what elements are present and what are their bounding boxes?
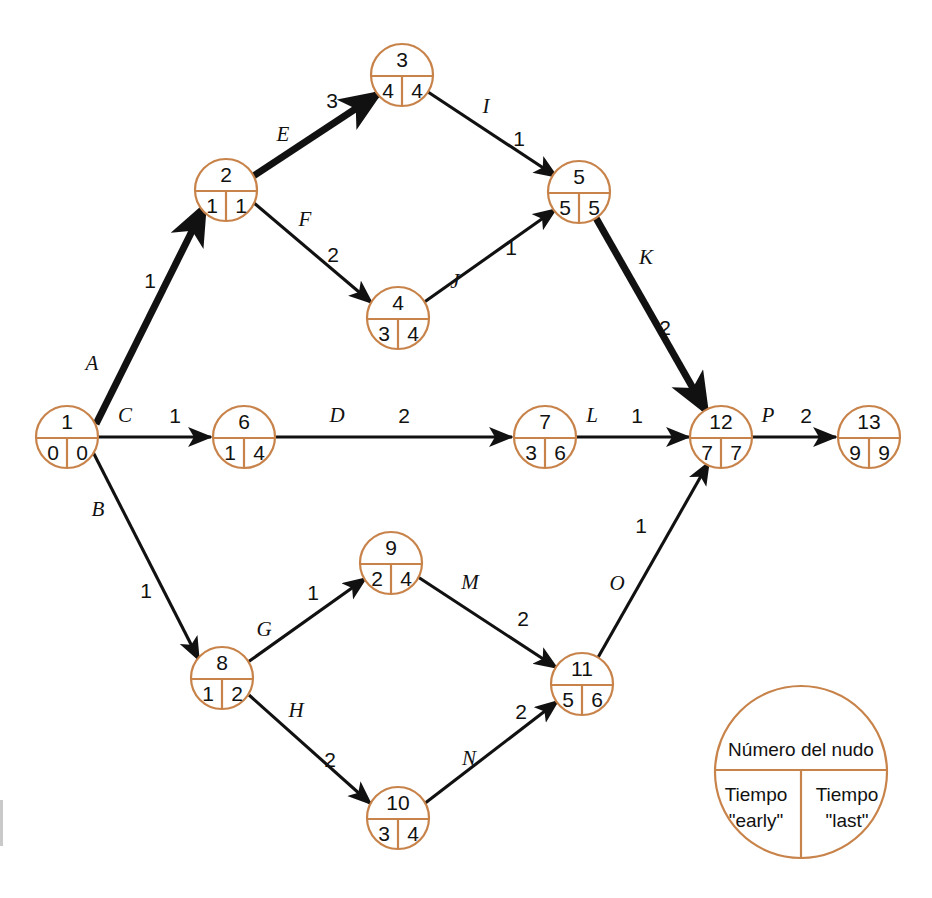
node-last-6: 4 xyxy=(253,441,265,464)
node-number-8: 8 xyxy=(216,651,228,674)
node-3[interactable]: 344 xyxy=(371,44,433,106)
node-last-7: 6 xyxy=(554,441,566,464)
edge-J[interactable]: J1 xyxy=(423,209,556,303)
edge-L[interactable]: L1 xyxy=(577,403,689,437)
legend-last-label-line2: "last" xyxy=(825,810,868,831)
edge-duration-J: 1 xyxy=(505,236,517,259)
edge-N[interactable]: N2 xyxy=(424,700,558,804)
edge-duration-D: 2 xyxy=(398,404,410,427)
edge-line-H[interactable] xyxy=(249,695,371,804)
node-early-1: 0 xyxy=(47,441,59,464)
node-early-11: 5 xyxy=(562,688,574,711)
node-last-9: 4 xyxy=(400,567,412,590)
node-last-3: 4 xyxy=(411,79,423,102)
node-number-9: 9 xyxy=(385,536,397,559)
legend-early-label-line1: Tiempo xyxy=(725,784,788,805)
legend-node-number-label: Número del nudo xyxy=(728,739,874,760)
edge-line-B[interactable] xyxy=(93,452,199,660)
node-last-4: 4 xyxy=(407,322,419,345)
node-early-3: 4 xyxy=(382,79,394,102)
node-early-7: 3 xyxy=(525,441,537,464)
node-last-13: 9 xyxy=(878,441,890,464)
node-early-10: 3 xyxy=(378,822,390,845)
edge-line-O[interactable] xyxy=(596,462,709,661)
edge-M[interactable]: M2 xyxy=(418,570,557,668)
edge-F[interactable]: F2 xyxy=(254,203,372,303)
edge-B[interactable]: B1 xyxy=(92,452,199,660)
node-4[interactable]: 434 xyxy=(367,287,429,349)
edge-label-N: N xyxy=(461,746,477,770)
edge-label-J: J xyxy=(450,269,461,293)
edge-label-C: C xyxy=(118,403,133,427)
edge-duration-P: 2 xyxy=(800,404,812,427)
node-9[interactable]: 924 xyxy=(360,532,422,594)
edge-A[interactable]: A1 xyxy=(84,207,204,424)
edge-line-A[interactable] xyxy=(96,207,204,424)
edge-label-O: O xyxy=(609,571,624,595)
edge-K[interactable]: K2 xyxy=(596,218,706,411)
node-last-8: 2 xyxy=(231,682,243,705)
edge-O[interactable]: O1 xyxy=(596,462,709,661)
edge-label-P: P xyxy=(761,403,775,427)
node-early-4: 3 xyxy=(378,322,390,345)
node-last-2: 1 xyxy=(235,194,247,217)
node-early-6: 1 xyxy=(224,441,236,464)
node-5[interactable]: 555 xyxy=(548,161,610,223)
edge-duration-F: 2 xyxy=(327,243,339,266)
edge-label-D: D xyxy=(328,403,344,427)
edge-E[interactable]: E3 xyxy=(252,89,378,177)
edge-label-L: L xyxy=(585,403,598,427)
network-diagram: A1B1C1D2E3F2I1J1K2L1G1H2M2N2O1P2 1002113… xyxy=(0,0,932,898)
edge-duration-I: 1 xyxy=(513,127,525,150)
edge-label-K: K xyxy=(638,245,654,269)
edge-label-E: E xyxy=(276,122,290,146)
edge-line-N[interactable] xyxy=(424,701,558,804)
node-13[interactable]: 1399 xyxy=(838,406,900,468)
edge-duration-E: 3 xyxy=(326,89,338,112)
node-last-12: 7 xyxy=(730,441,742,464)
edge-H[interactable]: H2 xyxy=(249,695,371,804)
edge-line-J[interactable] xyxy=(423,209,556,303)
node-last-11: 6 xyxy=(591,688,603,711)
edge-duration-C: 1 xyxy=(169,404,181,427)
edge-label-B: B xyxy=(92,497,105,521)
legend-early-label-line2: "early" xyxy=(729,810,784,831)
node-last-1: 0 xyxy=(76,441,88,464)
edge-C[interactable]: C1 xyxy=(96,403,211,437)
edge-label-M: M xyxy=(460,570,480,594)
edge-D[interactable]: D2 xyxy=(276,403,512,437)
edge-line-I[interactable] xyxy=(428,92,557,177)
edge-duration-N: 2 xyxy=(515,700,527,723)
edge-line-M[interactable] xyxy=(418,577,557,668)
edge-line-F[interactable] xyxy=(254,203,372,303)
node-number-7: 7 xyxy=(539,410,551,433)
node-number-13: 13 xyxy=(857,410,880,433)
page-edge-mark xyxy=(0,800,3,846)
edge-P[interactable]: P2 xyxy=(753,403,836,437)
node-7[interactable]: 736 xyxy=(514,406,576,468)
edge-duration-H: 2 xyxy=(324,748,336,771)
node-6[interactable]: 614 xyxy=(213,406,275,468)
node-1[interactable]: 100 xyxy=(36,406,98,468)
node-number-2: 2 xyxy=(220,163,232,186)
node-number-4: 4 xyxy=(392,291,404,314)
node-early-12: 7 xyxy=(701,441,713,464)
node-last-10: 4 xyxy=(407,822,419,845)
edge-line-E[interactable] xyxy=(252,94,378,177)
edge-duration-K: 2 xyxy=(659,316,671,339)
node-11[interactable]: 1156 xyxy=(551,653,613,715)
legend: Número del nudoTiempo"early"Tiempo"last" xyxy=(715,686,887,858)
edge-label-F: F xyxy=(298,207,312,231)
node-2[interactable]: 211 xyxy=(195,159,257,221)
edge-duration-O: 1 xyxy=(635,514,647,537)
node-number-11: 11 xyxy=(571,657,593,680)
node-last-5: 5 xyxy=(588,196,600,219)
edge-label-H: H xyxy=(287,698,305,722)
node-10[interactable]: 1034 xyxy=(367,787,429,849)
node-12[interactable]: 1277 xyxy=(690,406,752,468)
node-8[interactable]: 812 xyxy=(191,647,253,709)
node-early-5: 5 xyxy=(559,196,571,219)
edge-G[interactable]: G1 xyxy=(248,578,366,662)
edge-I[interactable]: I1 xyxy=(428,92,557,177)
legend-last-label-line1: Tiempo xyxy=(816,784,879,805)
